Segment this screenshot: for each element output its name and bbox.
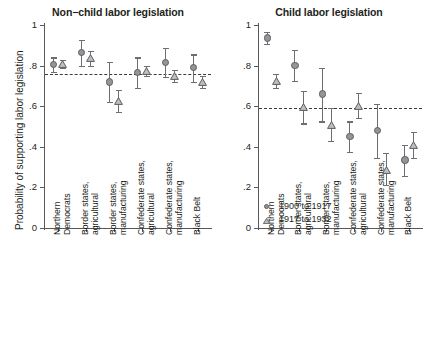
legend-label-0: 1900 to 1917 bbox=[279, 201, 332, 211]
panel-title-left: Non−child labor legislation bbox=[0, 6, 214, 18]
marker-triangle-right-0 bbox=[272, 77, 281, 85]
ci-cap-left-2-0-low bbox=[107, 102, 113, 103]
x-category-label-right-3: Confederate states,agricultural bbox=[349, 160, 368, 235]
x-category-label-left-1: Border states,agricultural bbox=[81, 182, 100, 236]
figure-panel-chart: Non−child labor legislation Child labor … bbox=[0, 0, 428, 338]
ci-cap-right-2-0-low bbox=[319, 121, 325, 122]
ci-cap-left-0-1-low bbox=[60, 68, 66, 69]
ci-cap-left-4-0-low bbox=[163, 77, 169, 78]
y-tick-left-2 bbox=[40, 147, 44, 148]
y-axis-title: Probability of supporting labor legislat… bbox=[14, 50, 25, 230]
marker-circle-right-3 bbox=[346, 133, 354, 141]
panel-title-right: Child labor legislation bbox=[214, 6, 428, 18]
marker-circle-right-2 bbox=[319, 90, 327, 98]
ci-cap-left-1-1-low bbox=[88, 66, 94, 67]
ci-cap-right-5-1-high bbox=[411, 132, 417, 133]
marker-triangle-left-1 bbox=[86, 54, 95, 62]
ci-cap-right-1-0-low bbox=[292, 81, 298, 82]
ci-cap-right-3-0-low bbox=[347, 152, 353, 153]
ci-cap-left-5-0-high bbox=[191, 54, 197, 55]
marker-triangle-left-0 bbox=[58, 60, 67, 68]
ci-cap-left-1-0-high bbox=[79, 40, 85, 41]
y-tick-right-5 bbox=[254, 25, 258, 26]
ci-cap-right-3-0-high bbox=[347, 121, 353, 122]
y-tick-label-right-5: 1 bbox=[232, 19, 251, 30]
marker-circle-left-2 bbox=[106, 78, 114, 86]
marker-circle-right-0 bbox=[264, 34, 272, 42]
marker-circle-right-5 bbox=[401, 156, 409, 164]
marker-triangle-left-4 bbox=[170, 72, 179, 80]
ci-cap-right-2-0-high bbox=[319, 68, 325, 69]
ci-cap-left-1-0-low bbox=[79, 66, 85, 67]
ci-cap-left-0-0-high bbox=[51, 57, 57, 58]
ci-cap-left-3-0-high bbox=[135, 57, 141, 58]
y-tick-label-right-4: .8 bbox=[232, 60, 251, 71]
y-tick-left-0 bbox=[40, 228, 44, 229]
x-category-label-left-0: NorthernDemocrats bbox=[53, 193, 72, 235]
ci-cap-right-1-1-high bbox=[301, 91, 307, 92]
y-tick-right-2 bbox=[254, 147, 258, 148]
y-tick-right-1 bbox=[254, 187, 258, 188]
marker-triangle-left-2 bbox=[114, 97, 123, 105]
ci-cap-right-4-1-low bbox=[383, 185, 389, 186]
ci-cap-right-4-0-high bbox=[374, 104, 380, 105]
ci-cap-right-0-1-low bbox=[273, 88, 279, 89]
ci-cap-left-4-1-low bbox=[172, 82, 178, 83]
y-tick-label-right-0: 0 bbox=[232, 222, 251, 233]
marker-triangle-left-3 bbox=[142, 67, 151, 75]
reference-line-right bbox=[259, 108, 422, 109]
legend-label-1: 1917 to 1932 bbox=[279, 214, 332, 224]
ci-cap-left-2-1-low bbox=[116, 112, 122, 113]
marker-triangle-left-5 bbox=[198, 78, 207, 86]
ci-cap-right-4-0-low bbox=[374, 158, 380, 159]
marker-triangle-right-4 bbox=[382, 166, 391, 174]
ci-cap-left-3-1-low bbox=[144, 76, 150, 77]
ci-cap-right-2-1-low bbox=[328, 141, 334, 142]
ci-cap-right-3-1-low bbox=[356, 118, 362, 119]
marker-triangle-right-5 bbox=[409, 141, 418, 149]
x-category-label-left-5: Black Belt bbox=[193, 197, 203, 235]
x-category-label-right-5: Black Belt bbox=[404, 197, 414, 235]
ci-cap-right-5-1-low bbox=[411, 158, 417, 159]
y-tick-left-5 bbox=[40, 25, 44, 26]
y-tick-label-left-5: 1 bbox=[18, 19, 37, 30]
ci-cap-right-3-1-high bbox=[356, 93, 362, 94]
marker-circle-right-1 bbox=[291, 62, 299, 70]
y-tick-left-4 bbox=[40, 66, 44, 67]
ci-cap-left-4-0-high bbox=[163, 48, 169, 49]
ci-cap-left-4-1-high bbox=[172, 70, 178, 71]
marker-triangle-right-3 bbox=[354, 102, 363, 110]
y-tick-label-right-1: .2 bbox=[232, 181, 251, 192]
y-tick-left-3 bbox=[40, 106, 44, 107]
ci-cap-right-2-1-high bbox=[328, 108, 334, 109]
y-tick-right-3 bbox=[254, 106, 258, 107]
ci-cap-left-1-1-high bbox=[88, 51, 94, 52]
ci-cap-left-2-1-high bbox=[116, 90, 122, 91]
y-tick-label-right-2: .4 bbox=[232, 141, 251, 152]
x-category-label-left-4: Confederate states,manufacturing bbox=[165, 160, 184, 235]
ci-cap-left-0-0-low bbox=[51, 72, 57, 73]
y-tick-label-right-3: .6 bbox=[232, 100, 251, 111]
y-axis-right bbox=[258, 23, 259, 230]
ci-cap-right-4-1-high bbox=[383, 153, 389, 154]
legend-circle-icon bbox=[264, 204, 269, 209]
ci-cap-right-0-1-high bbox=[273, 74, 279, 75]
y-tick-right-4 bbox=[254, 66, 258, 67]
x-category-label-left-2: Border states,manufacturing bbox=[109, 181, 128, 235]
y-axis-left bbox=[44, 23, 45, 230]
ci-cap-left-5-1-high bbox=[200, 76, 206, 77]
ci-cap-left-5-0-low bbox=[191, 82, 197, 83]
ci-cap-right-5-0-high bbox=[402, 145, 408, 146]
y-tick-left-1 bbox=[40, 187, 44, 188]
ci-cap-left-2-0-high bbox=[107, 62, 113, 63]
x-category-label-left-3: Confederate states,agricultural bbox=[137, 160, 156, 235]
ci-cap-left-5-1-low bbox=[200, 88, 206, 89]
legend-triangle-icon bbox=[263, 216, 270, 222]
ci-cap-right-0-0-high bbox=[264, 32, 270, 33]
ci-cap-right-1-1-low bbox=[301, 123, 307, 124]
marker-triangle-right-1 bbox=[299, 103, 308, 111]
y-tick-right-0 bbox=[254, 228, 258, 229]
reference-line-left bbox=[45, 74, 211, 75]
ci-cap-right-0-0-low bbox=[264, 44, 270, 45]
ci-cap-left-3-0-low bbox=[135, 88, 141, 89]
